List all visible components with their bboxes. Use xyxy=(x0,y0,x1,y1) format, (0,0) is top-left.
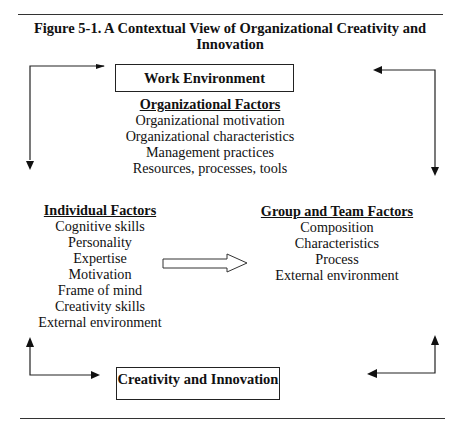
hollow-right-arrow-icon xyxy=(163,254,247,272)
left-bottom-loop-arrow-icon xyxy=(26,337,100,379)
left-top-loop-arrow-icon xyxy=(26,64,105,170)
right-bottom-loop-arrow-icon xyxy=(367,335,439,378)
right-top-loop-arrow-icon xyxy=(373,66,439,176)
connector-arrows xyxy=(0,0,462,429)
